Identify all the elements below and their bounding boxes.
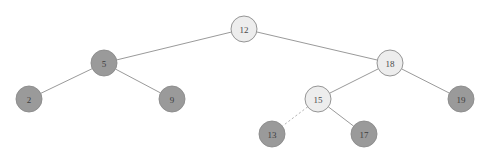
tree-edge-5-9 (115, 69, 160, 93)
tree-node-19[interactable]: 19 (448, 86, 474, 112)
node-circle-13[interactable] (259, 121, 285, 147)
node-circle-15[interactable] (305, 86, 331, 112)
tree-edge-12-18 (257, 32, 378, 60)
tree-node-12[interactable]: 12 (231, 16, 257, 42)
tree-edge-12-5 (117, 32, 232, 60)
binary-tree-diagram: 125182915191317 (0, 0, 490, 160)
tree-edge-5-2 (41, 69, 93, 94)
tree-edge-15-17 (328, 107, 353, 126)
node-circle-18[interactable] (377, 50, 403, 76)
tree-node-5[interactable]: 5 (91, 50, 117, 76)
tree-edge-18-19 (402, 69, 450, 93)
tree-node-18[interactable]: 18 (377, 50, 403, 76)
tree-edge-15-13 (282, 107, 307, 126)
tree-canvas: 125182915191317 (0, 0, 490, 160)
tree-edges (41, 32, 450, 126)
tree-node-17[interactable]: 17 (351, 121, 377, 147)
tree-nodes: 125182915191317 (16, 16, 474, 147)
node-circle-5[interactable] (91, 50, 117, 76)
tree-node-9[interactable]: 9 (159, 86, 185, 112)
tree-node-15[interactable]: 15 (305, 86, 331, 112)
tree-node-2[interactable]: 2 (16, 86, 42, 112)
node-circle-17[interactable] (351, 121, 377, 147)
node-circle-2[interactable] (16, 86, 42, 112)
tree-edge-18-15 (330, 69, 379, 93)
tree-node-13[interactable]: 13 (259, 121, 285, 147)
node-circle-9[interactable] (159, 86, 185, 112)
node-circle-12[interactable] (231, 16, 257, 42)
node-circle-19[interactable] (448, 86, 474, 112)
